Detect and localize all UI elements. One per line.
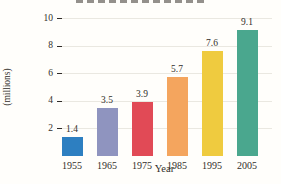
- y-tick-label-6: 6: [29, 68, 53, 79]
- bar-1965: [97, 108, 118, 156]
- clipped-title-text: [76, 0, 208, 3]
- y-tick-label-10: 10: [29, 13, 53, 24]
- bar-chart-figure: Number of Words (millions) 2468101.41955…: [0, 0, 281, 184]
- x-axis-title: Year: [57, 163, 272, 174]
- y-tick-label-8: 8: [29, 40, 53, 51]
- bar-value-1955: 1.4: [55, 124, 89, 134]
- bar-1995: [202, 51, 223, 156]
- bar-1955: [62, 137, 83, 156]
- x-axis-line: [57, 155, 272, 157]
- y-axis-line: [57, 18, 59, 156]
- bar-value-1965: 3.5: [90, 95, 124, 105]
- plot-area: 2468101.419553.519653.919755.719857.6199…: [57, 18, 272, 156]
- bar-value-1995: 7.6: [195, 38, 229, 48]
- y-tick-label-4: 4: [29, 95, 53, 106]
- bar-value-1985: 5.7: [160, 64, 194, 74]
- bar-1975: [132, 102, 153, 156]
- bar-2005: [237, 30, 258, 156]
- bar-value-2005: 9.1: [230, 17, 264, 27]
- y-tick-label-2: 2: [29, 123, 53, 134]
- y-axis-title-line2: (millions): [2, 17, 13, 157]
- bar-value-1975: 3.9: [125, 89, 159, 99]
- bar-1985: [167, 77, 188, 156]
